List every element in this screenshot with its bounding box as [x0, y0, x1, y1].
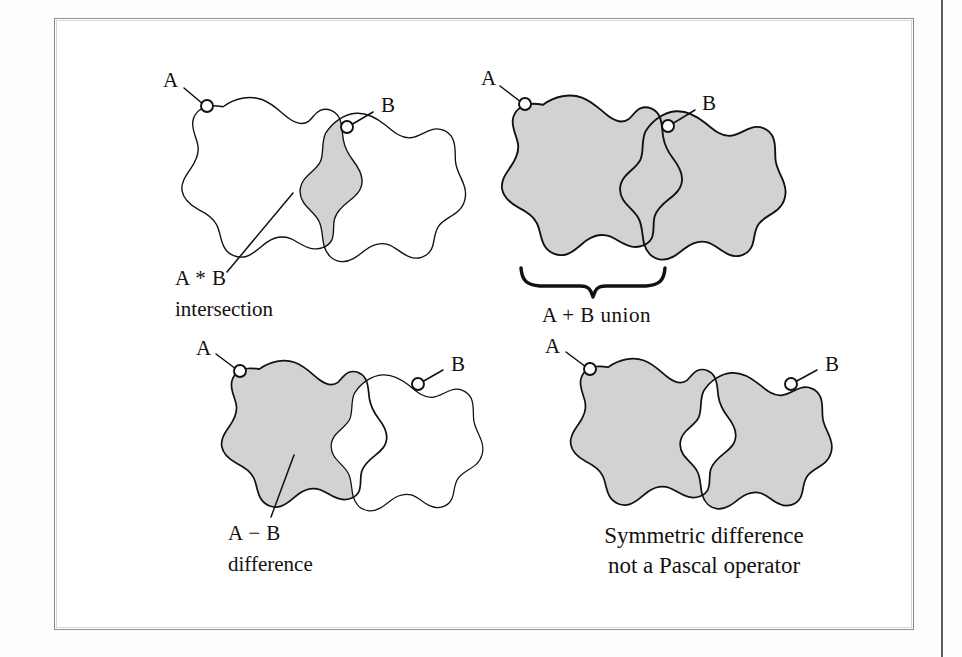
panel-difference-set-b-label: B — [451, 352, 465, 377]
panel-intersection-operation-name: intersection — [175, 296, 273, 323]
set-b-leader-line — [795, 370, 817, 382]
panel-union-set-a-label: A — [481, 66, 496, 91]
union-brace — [521, 268, 665, 297]
panel-difference — [150, 330, 550, 630]
figure-root: A B A * B intersection A B A + B union A… — [0, 0, 962, 657]
set-a-leader-line — [566, 352, 586, 367]
set-a-leader-line — [184, 88, 203, 104]
set-b-leader-line — [422, 370, 443, 382]
panel-intersection — [100, 60, 500, 360]
set-a-leader-line — [500, 86, 521, 102]
set-a-anchor-marker — [201, 100, 213, 112]
intersection-callout-line — [227, 193, 293, 272]
set-a-anchor-marker — [519, 98, 531, 110]
panel-symmetric-difference-set-b-label: B — [825, 352, 839, 377]
panel-intersection-operation-label: A * B — [175, 265, 227, 292]
set-b-anchor-marker — [785, 378, 797, 390]
panel-symmetric-difference-operation-name: not a Pascal operator — [554, 551, 854, 581]
set-a-leader-line — [216, 354, 236, 369]
intersection-shaded-region — [100, 60, 500, 360]
panel-symmetric-difference — [500, 330, 900, 630]
panel-difference-operation-name: difference — [228, 551, 313, 578]
set-a-anchor-marker — [584, 363, 596, 375]
panel-intersection-set-b-label: B — [381, 93, 395, 118]
panel-union-operation-label: A + B union — [524, 302, 669, 329]
panel-symmetric-difference-operation-label: Symmetric difference — [554, 521, 854, 551]
set-b-anchor-marker — [412, 378, 424, 390]
panel-intersection-set-a-label: A — [163, 68, 178, 93]
panel-union-set-b-label: B — [702, 91, 716, 116]
set-b-anchor-marker — [341, 121, 353, 133]
panel-difference-set-a-label: A — [196, 336, 211, 361]
set-b-anchor-marker — [662, 120, 674, 132]
panel-difference-operation-label: A − B — [228, 520, 281, 547]
set-a-anchor-marker — [234, 365, 246, 377]
panel-symmetric-difference-set-a-label: A — [545, 334, 560, 359]
